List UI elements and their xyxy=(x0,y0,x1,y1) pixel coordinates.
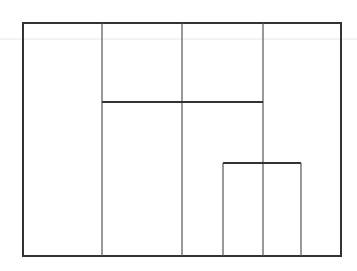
rectangle-diagram xyxy=(0,0,357,271)
